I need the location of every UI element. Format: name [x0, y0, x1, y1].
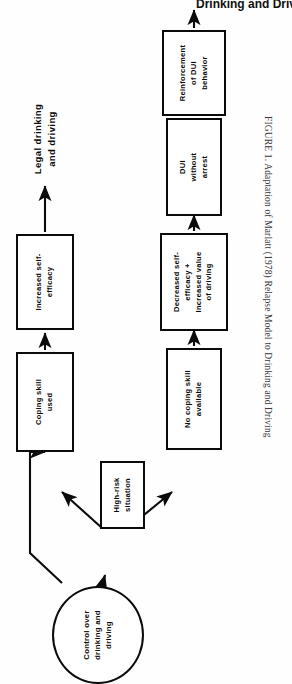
node-coping-skill-used-label: Coping skill used	[34, 379, 56, 425]
node-high-risk-situation: High-risk situation	[100, 461, 145, 529]
label-legal-drinking-and-driving-text: Legal drinking and driving	[31, 104, 59, 175]
node-increased-self-efficacy: Increased self- efficacy	[16, 234, 74, 330]
node-increased-self-efficacy-label: Increased self- efficacy	[34, 254, 56, 311]
node-decreased-self-efficacy-label: Decreased self- efficacy + Increased val…	[172, 252, 215, 313]
node-decreased-self-efficacy: Decreased self- efficacy + Increased val…	[160, 233, 228, 331]
node-no-coping-skill-available-label: No coping skill available	[183, 370, 205, 428]
node-dui-without-arrest: DUI without arrest	[166, 118, 222, 216]
node-dui-without-arrest-label: DUI without arrest	[178, 153, 210, 182]
edge-control-to-coping	[30, 452, 62, 583]
node-coping-skill-used: Coping skill used	[16, 352, 74, 452]
label-legal-drinking-and-driving: Legal drinking and driving	[8, 102, 82, 176]
node-high-risk-situation-label: High-risk situation	[112, 477, 134, 512]
edge-highrisk-to-coping	[62, 492, 102, 528]
node-control-over-drinking-label: Control over drinking and driving	[81, 610, 114, 660]
node-reinforcement-of-dui-behavior: Reinforcement of DUI behavior	[162, 30, 226, 116]
figure-caption: FIGURE 1. Adaptation of Marlatt (1978) R…	[263, 116, 273, 568]
node-reinforcement-of-dui-behavior-label: Reinforcement of DUI behavior	[178, 45, 210, 101]
figure-diagram: Control over drinking and driving High-r…	[0, 0, 292, 684]
node-control-over-drinking: Control over drinking and driving	[52, 586, 144, 684]
node-no-coping-skill-available: No coping skill available	[166, 348, 222, 450]
